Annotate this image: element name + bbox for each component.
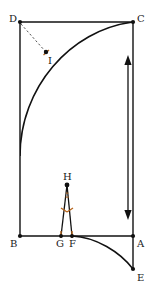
point-label-F: F (69, 239, 76, 249)
point-label-C: C (137, 14, 145, 24)
vertex-dot-I (44, 50, 48, 54)
arrow-head-down-icon (124, 210, 131, 220)
vertex-dot-D (18, 20, 22, 24)
geometry-diagram-canvas: D C I H B G F A E (0, 0, 166, 302)
point-label-B: B (10, 239, 17, 249)
point-label-H: H (63, 172, 72, 182)
vertex-dot-B (18, 234, 22, 238)
point-label-E: E (137, 273, 144, 283)
arrow-head-up-icon (124, 55, 131, 65)
figure-svg (0, 0, 166, 302)
vertex-dot-A (131, 234, 135, 238)
vertex-dot-E (131, 267, 135, 271)
vertex-dot-C (131, 20, 135, 24)
point-label-I: I (48, 56, 52, 66)
point-label-A: A (137, 239, 144, 249)
arc-minor-FE (72, 236, 133, 269)
radius-DI (21, 24, 45, 51)
point-label-D: D (9, 14, 17, 24)
vertex-dot-H (65, 183, 70, 188)
point-label-G: G (56, 239, 64, 249)
